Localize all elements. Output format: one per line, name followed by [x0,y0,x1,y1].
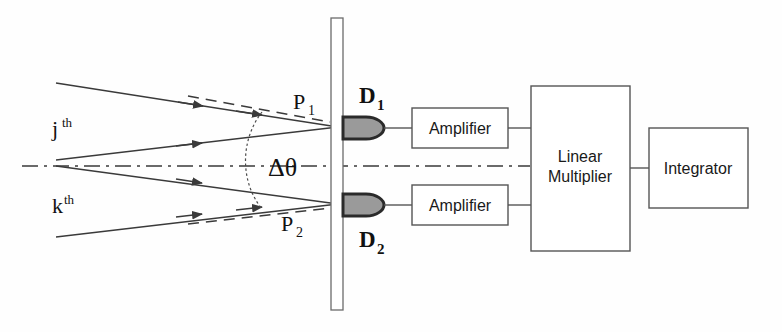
ray-arrow-jth-outer-a [178,102,203,106]
pinhole-p1-base: P [293,89,305,114]
detector-d2-base: D [359,227,376,252]
integrator-label: Integrator [664,160,733,177]
diagram-canvas: Amplifier Amplifier Linear Multiplier In… [0,0,782,332]
detector-d1-body [343,117,384,139]
source-label-kth-superscript: th [64,192,75,207]
dashed-ray-lower [188,208,330,224]
ray-arrow-kth-outer-a [176,214,202,217]
linear-multiplier-label-line2: Multiplier [548,168,613,185]
aperture-screen [331,18,343,310]
ray-arrow-jth-inner [176,143,202,146]
detector-d2 [343,194,384,216]
pinhole-p2-subscript: 2 [296,225,303,240]
amplifier-top-label: Amplifier [429,120,492,137]
delta-theta-label: Δθ [268,153,297,182]
detector-d1-subscript: 1 [377,97,385,113]
linear-multiplier-label-line1: Linear [558,148,603,165]
detector-d1 [343,117,384,139]
detector-d2-body [343,194,384,216]
optics-block-diagram: Amplifier Amplifier Linear Multiplier In… [0,0,782,332]
source-label-jth-base: j [51,116,58,141]
source-label-kth-base: k [52,193,63,218]
amplifier-bottom-label: Amplifier [429,197,492,214]
ray-arrow-kth-outer-b [236,207,262,210]
ray-arrow-jth-outer-b [236,111,262,115]
delta-theta-arc [246,112,263,209]
detector-d1-base: D [359,83,376,108]
source-label-jth-superscript: th [62,115,73,130]
pinhole-p2-base: P [281,211,293,236]
detector-d2-subscript: 2 [377,241,385,257]
pinhole-p1-subscript: 1 [308,103,315,118]
